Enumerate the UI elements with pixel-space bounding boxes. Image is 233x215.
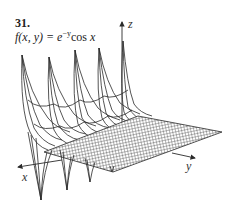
y-axis-label: y — [186, 159, 191, 174]
z-axis-label: z — [128, 17, 133, 32]
surface-plot-svg — [0, 0, 233, 215]
surface-sheet — [44, 116, 222, 172]
surface-plot-figure: 31. f(x, y) = e−ycos x — [0, 0, 233, 215]
x-axis — [18, 160, 62, 167]
x-axis-label: x — [22, 170, 27, 185]
y-axis — [172, 153, 195, 158]
